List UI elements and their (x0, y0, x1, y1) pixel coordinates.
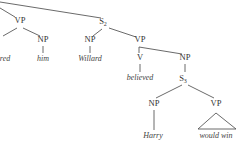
edge-root-vp1 (0, 8, 15, 17)
node-np-harry: NP (149, 98, 160, 108)
node-vp3: VP (211, 98, 222, 108)
syntax-tree-diagram: VP NP S2 NP VP V NP S3 NP VP red him Wil… (0, 0, 242, 144)
node-np-willard: NP (85, 34, 96, 44)
word-believed: believed (127, 73, 155, 82)
word-harry: Harry (142, 131, 163, 140)
edge-s3-np (156, 85, 182, 98)
edge-vp-np (139, 47, 182, 54)
tree-edges (0, 2, 236, 130)
word-would-win: would win (199, 131, 232, 140)
vp-triangle (198, 113, 236, 129)
node-np-him: NP (38, 34, 49, 44)
edge-vp1-left (3, 28, 17, 36)
word-red: red (0, 54, 11, 63)
node-vp1: VP (15, 15, 26, 25)
tree-words: red him Willard believed Harry would win (0, 54, 233, 140)
node-v: V (137, 52, 144, 62)
node-vp2: VP (135, 34, 146, 44)
node-np-s3: NP (180, 52, 191, 62)
node-s2: S2 (99, 16, 107, 27)
word-him: him (37, 54, 49, 63)
edge-s3-vp (188, 85, 214, 98)
edge-s2-vp (109, 28, 136, 37)
node-s3: S3 (179, 73, 187, 84)
word-willard: Willard (78, 54, 103, 63)
